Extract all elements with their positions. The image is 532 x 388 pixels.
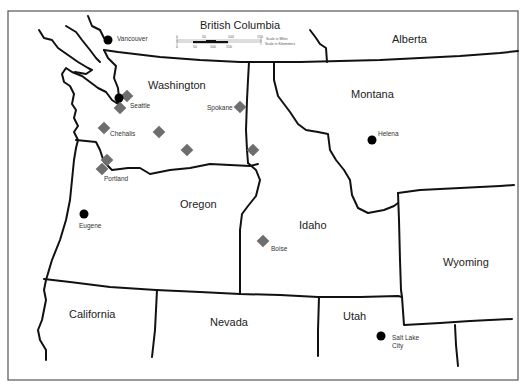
diamond-marker-icon [234, 101, 247, 114]
scale-km-tick-50: 50 [193, 45, 197, 49]
city-dot-icon [377, 332, 386, 341]
diamond-marker-icon [257, 235, 270, 248]
map: 0 50 100 150 Scale in Miles 0 50 100 150… [0, 0, 532, 388]
city-dot-icon [104, 36, 113, 45]
diamond-marker-icon [247, 144, 260, 157]
city-dot-icon [115, 94, 124, 103]
state-label-washington: Washington [148, 79, 206, 91]
state-label-alberta: Alberta [392, 33, 427, 45]
city-label-seattle: Seattle [130, 102, 150, 110]
state-label-utah: Utah [343, 310, 366, 322]
city-dots [80, 36, 386, 341]
scale-bar [177, 38, 261, 45]
diamond-marker-icon [153, 126, 166, 139]
city-label-chehalis: Chehalis [110, 130, 135, 138]
diamond-marker-icon [98, 122, 111, 135]
scale-miles-tick-100: 100 [228, 35, 234, 39]
state-label-idaho: Idaho [299, 219, 327, 231]
city-label-spokane: Spokane [207, 104, 233, 112]
state-label-british-columbia: British Columbia [200, 19, 280, 31]
state-label-wyoming: Wyoming [443, 256, 489, 268]
city-label-portland: Portland [104, 175, 128, 183]
city-label-salt-lake-city: Salt Lake City [392, 334, 419, 350]
scale-km-tick-0: 0 [176, 45, 178, 49]
scale-miles-label: Scale in Miles [266, 37, 288, 41]
scale-miles-tick-50: 50 [202, 35, 206, 39]
state-label-montana: Montana [351, 88, 394, 100]
map-canvas [0, 0, 532, 388]
scale-miles-tick-0: 0 [176, 35, 178, 39]
city-label-eugene: Eugene [79, 222, 101, 230]
state-label-nevada: Nevada [210, 316, 248, 328]
scale-km-tick-150: 150 [226, 45, 232, 49]
city-label-boise: Boise [271, 245, 287, 253]
city-label-helena: Helena [378, 130, 399, 138]
city-dot-icon [80, 210, 89, 219]
city-dot-icon [368, 136, 377, 145]
diamond-marker-icon [181, 144, 194, 157]
scale-miles-tick-150: 150 [257, 35, 263, 39]
city-label-vancouver: Vancouver [117, 35, 148, 43]
scale-km-label: Scale in Kilometers [265, 42, 295, 46]
state-label-california: California [69, 308, 115, 320]
state-label-oregon: Oregon [180, 198, 217, 210]
scale-km-tick-100: 100 [210, 45, 216, 49]
